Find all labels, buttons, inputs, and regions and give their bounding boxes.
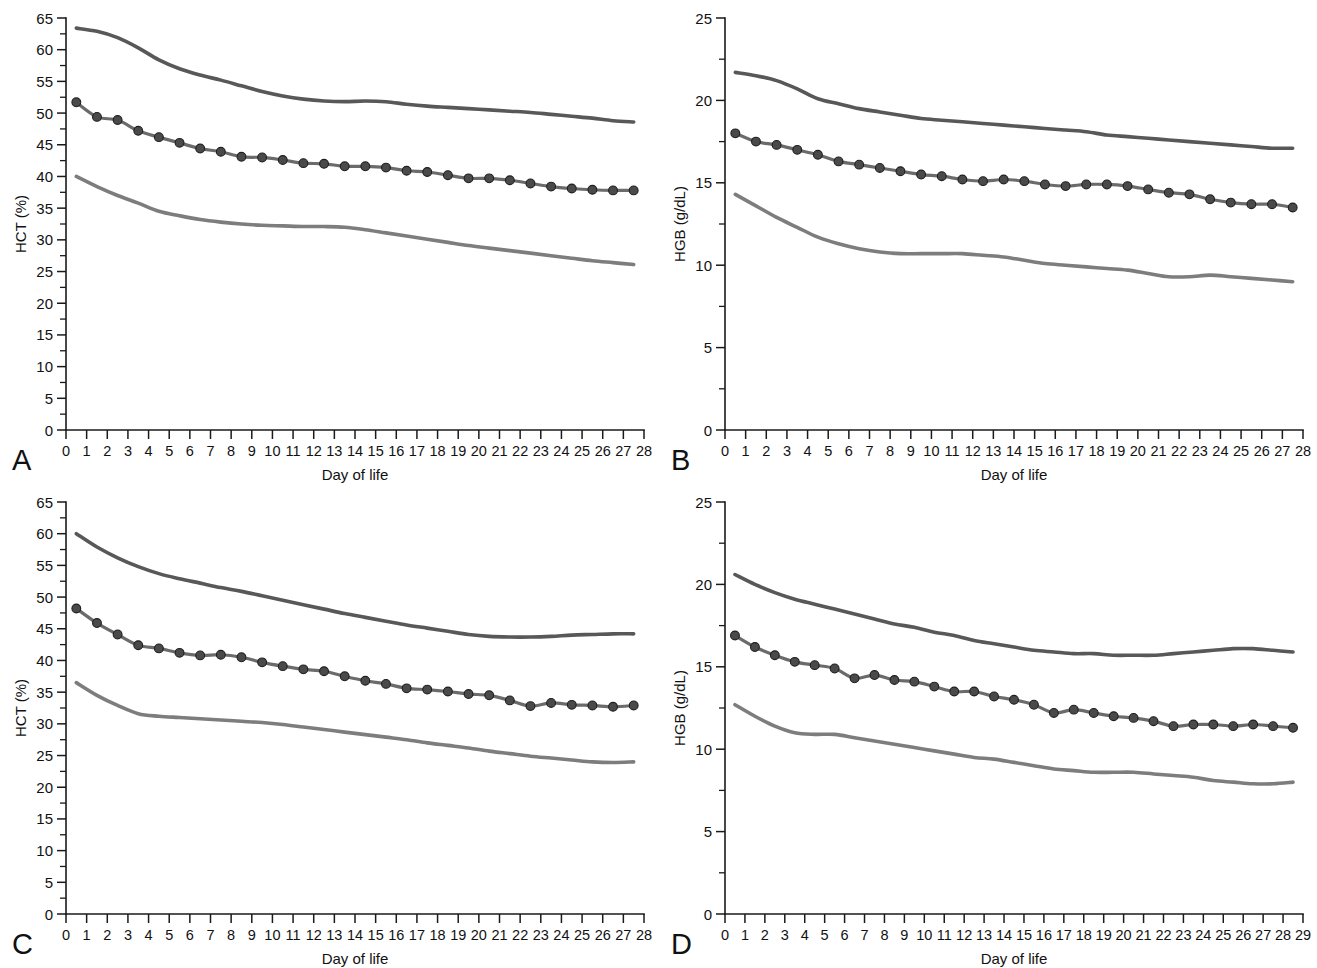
x-tick-label: 21 <box>1150 443 1166 459</box>
x-tick-label: 10 <box>264 927 280 943</box>
data-point-marker <box>154 644 163 653</box>
y-tick-label: 30 <box>36 715 53 732</box>
x-tick-label: 4 <box>804 443 812 459</box>
x-tick-label: 21 <box>491 927 507 943</box>
data-point-marker <box>1049 709 1058 718</box>
panel-letter-c: C <box>12 928 33 960</box>
data-point-marker <box>830 664 839 673</box>
data-point-marker <box>237 653 246 662</box>
x-tick-label: 24 <box>1212 443 1228 459</box>
data-point-marker <box>1269 722 1278 731</box>
data-point-marker <box>1289 723 1298 732</box>
y-tick-label: 20 <box>695 576 712 593</box>
x-tick-label: 6 <box>845 443 853 459</box>
data-point-marker <box>896 167 905 176</box>
x-tick-label: 24 <box>553 927 569 943</box>
data-point-marker <box>175 648 184 657</box>
x-tick-label: 11 <box>945 443 960 459</box>
y-tick-label: 15 <box>695 658 712 675</box>
x-tick-label: 3 <box>124 443 132 459</box>
data-point-marker <box>258 153 267 162</box>
x-tick-label: 9 <box>248 927 256 943</box>
data-point-marker <box>216 147 225 156</box>
x-tick-label: 12 <box>306 443 322 459</box>
x-tick-label: 7 <box>860 927 868 943</box>
x-tick-label: 5 <box>165 443 173 459</box>
curve-lower <box>735 194 1292 281</box>
x-tick-label: 19 <box>450 443 466 459</box>
x-tick-label: 12 <box>965 443 981 459</box>
x-tick-label: 25 <box>574 927 590 943</box>
data-point-marker <box>1288 203 1297 212</box>
plot-area-d: 0510152025012345678910111213141516171819… <box>695 494 1311 944</box>
x-tick-label: 25 <box>574 443 590 459</box>
chart-svg-c: 0510152025303540455055606501234567891011… <box>0 484 658 968</box>
data-point-marker <box>278 662 287 671</box>
data-point-marker <box>970 687 979 696</box>
data-point-marker <box>567 184 576 193</box>
y-tick-label: 40 <box>36 168 53 185</box>
x-tick-label: 3 <box>124 927 132 943</box>
data-point-marker <box>950 687 959 696</box>
data-point-marker <box>1010 695 1019 704</box>
x-tick-label: 7 <box>865 443 873 459</box>
y-tick-label: 5 <box>45 874 53 891</box>
chart-panel-c: 0510152025303540455055606501234567891011… <box>0 484 658 968</box>
data-point-marker <box>340 162 349 171</box>
x-tick-label: 26 <box>1254 443 1270 459</box>
x-tick-label: 7 <box>206 443 214 459</box>
data-point-marker <box>1109 712 1118 721</box>
x-tick-label: 2 <box>103 927 111 943</box>
x-tick-label: 3 <box>781 927 789 943</box>
x-tick-label: 18 <box>1089 443 1105 459</box>
x-tick-label: 21 <box>1135 927 1151 943</box>
chart-svg-a: 0510152025303540455055606501234567891011… <box>0 0 658 484</box>
x-tick-label: 25 <box>1215 927 1231 943</box>
data-point-marker <box>1169 722 1178 731</box>
y-axis-title: HGB (g/dL) <box>671 186 688 262</box>
data-point-marker <box>850 674 859 683</box>
x-tick-label: 11 <box>286 927 301 943</box>
x-tick-label: 19 <box>1109 443 1125 459</box>
x-tick-label: 5 <box>821 927 829 943</box>
data-point-marker <box>382 680 391 689</box>
curve-upper <box>76 534 633 637</box>
y-tick-label: 20 <box>36 295 53 312</box>
data-point-marker <box>1249 720 1258 729</box>
data-point-marker <box>1247 200 1256 209</box>
y-tick-label: 10 <box>36 842 53 859</box>
y-tick-label: 25 <box>36 263 53 280</box>
x-tick-label: 24 <box>1195 927 1211 943</box>
data-point-marker <box>526 702 535 711</box>
data-point-marker <box>175 138 184 147</box>
x-tick-label: 18 <box>430 927 446 943</box>
curve-mean <box>76 608 633 706</box>
x-tick-label: 26 <box>595 443 611 459</box>
y-tick-label: 60 <box>36 525 53 542</box>
data-point-marker <box>990 692 999 701</box>
x-tick-label: 25 <box>1233 443 1249 459</box>
x-tick-label: 16 <box>1047 443 1063 459</box>
data-point-marker <box>588 185 597 194</box>
y-tick-label: 0 <box>45 906 53 923</box>
x-tick-label: 18 <box>1076 927 1092 943</box>
panel-letter-b: B <box>671 444 690 476</box>
x-tick-label: 16 <box>388 927 404 943</box>
data-point-marker <box>154 133 163 142</box>
data-point-marker <box>258 658 267 667</box>
x-tick-label: 13 <box>985 443 1001 459</box>
y-tick-label: 40 <box>36 652 53 669</box>
x-tick-label: 0 <box>721 443 729 459</box>
data-point-marker <box>464 690 473 699</box>
data-point-marker <box>443 171 452 180</box>
x-tick-label: 13 <box>326 927 342 943</box>
data-point-marker <box>1164 188 1173 197</box>
data-point-marker <box>134 641 143 650</box>
x-tick-label: 8 <box>227 927 235 943</box>
x-tick-label: 4 <box>145 443 153 459</box>
data-point-marker <box>1041 180 1050 189</box>
x-tick-label: 17 <box>1068 443 1084 459</box>
y-tick-label: 15 <box>36 810 53 827</box>
x-tick-label: 15 <box>1027 443 1043 459</box>
data-point-marker <box>196 651 205 660</box>
